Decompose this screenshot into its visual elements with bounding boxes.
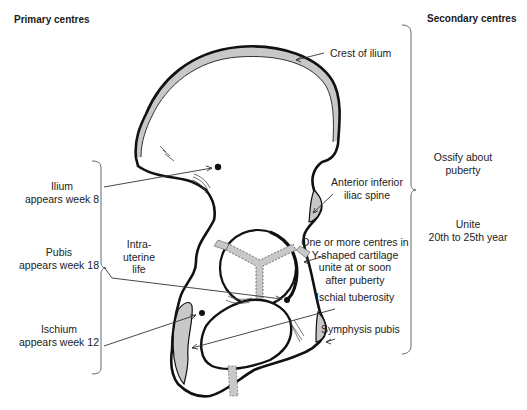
- crest-of-ilium-cartilage: [136, 46, 340, 158]
- pubis-name: Pubis: [14, 246, 104, 259]
- symphysis-pubis-label: Symphysis pubis: [321, 323, 400, 336]
- aiis-line1: Anterior inferior: [322, 176, 412, 189]
- ilium-label: Ilium appears week 8: [22, 180, 102, 205]
- ischium-name: Ischium: [14, 323, 104, 336]
- intra-uterine-line3: life: [114, 263, 164, 276]
- unite-line1: Unite: [418, 218, 518, 231]
- ischial-tuberosity-label: Ischial tuberosity: [316, 291, 394, 304]
- acetabulum: [214, 230, 310, 306]
- intra-uterine-life-label: Intra- uterine life: [114, 238, 164, 276]
- crest-of-ilium-label: Crest of ilium: [330, 47, 391, 60]
- hip-bone-diagram: [0, 0, 527, 410]
- intra-uterine-line1: Intra-: [114, 238, 164, 251]
- ischium-cartilage: [173, 303, 192, 384]
- ischium-ossification-dot: [199, 310, 205, 316]
- y-cartilage-label: One or more centres in Y-shaped cartilag…: [300, 236, 410, 286]
- crest-inner-line: [141, 56, 333, 157]
- ossify-about-puberty-label: Ossify about puberty: [418, 151, 508, 176]
- ilium-ossification-dot: [215, 164, 221, 170]
- ilium-detail: appears week 8: [22, 193, 102, 206]
- ischium-detail: appears week 12: [14, 336, 104, 349]
- aiis-label: Anterior inferior iliac spine: [322, 176, 412, 201]
- unite-age-label: Unite 20th to 25th year: [418, 218, 518, 243]
- ossify-line2: puberty: [418, 164, 508, 177]
- ossify-line1: Ossify about: [418, 151, 508, 164]
- pubis-label: Pubis appears week 18: [14, 246, 104, 271]
- aiis-line2: iliac spine: [322, 189, 412, 202]
- pubis-ossification-dot: [284, 297, 290, 303]
- y-line4: after puberty: [300, 274, 410, 287]
- pubis-detail: appears week 18: [14, 259, 104, 272]
- y-line3: unite at or soon: [300, 261, 410, 274]
- ilium-name: Ilium: [22, 180, 102, 193]
- ischium-label: Ischium appears week 12: [14, 323, 104, 348]
- unite-line2: 20th to 25th year: [418, 231, 518, 244]
- y-line1: One or more centres in: [300, 236, 410, 249]
- ischiopubic-cartilage: [228, 366, 238, 396]
- intra-uterine-line2: uterine: [114, 251, 164, 264]
- obturator-foramen: [201, 300, 291, 369]
- y-line2: Y-shaped cartilage: [300, 249, 410, 262]
